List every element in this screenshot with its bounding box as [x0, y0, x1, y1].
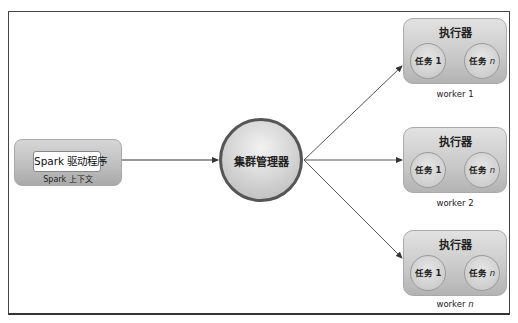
- executor-node-worker-n: 执行器 任务 1 任务 n: [403, 230, 507, 296]
- cluster-manager-node: 集群管理器: [219, 118, 303, 202]
- executor-node-worker-1: 执行器 任务 1 任务 n: [403, 18, 507, 84]
- edge-cluster-manager-to-worker-1: [304, 66, 402, 160]
- task-node-1: 任务 1: [410, 152, 446, 188]
- executor-label: 执行器: [404, 133, 506, 149]
- task-node-n: 任务 n: [464, 43, 500, 79]
- driver-program-label: Spark 驱动程序: [33, 151, 101, 172]
- executor-label: 执行器: [404, 24, 506, 40]
- edge-cluster-manager-to-worker-n: [304, 160, 402, 258]
- executor-node-worker-2: 执行器 任务 1 任务 n: [403, 127, 507, 193]
- worker-label-n: worker n: [403, 299, 507, 309]
- task-node-1: 任务 1: [410, 255, 446, 291]
- worker-label-1: worker 1: [403, 89, 507, 99]
- task-node-n: 任务 n: [464, 152, 500, 188]
- task-node-n: 任务 n: [464, 255, 500, 291]
- executor-label: 执行器: [404, 236, 506, 252]
- worker-label-2: worker 2: [403, 198, 507, 208]
- task-node-1: 任务 1: [410, 43, 446, 79]
- spark-context-label: Spark 上下文: [15, 173, 121, 184]
- cluster-manager-label: 集群管理器: [222, 153, 300, 169]
- driver-node: Spark 驱动程序 Spark 上下文: [14, 139, 122, 186]
